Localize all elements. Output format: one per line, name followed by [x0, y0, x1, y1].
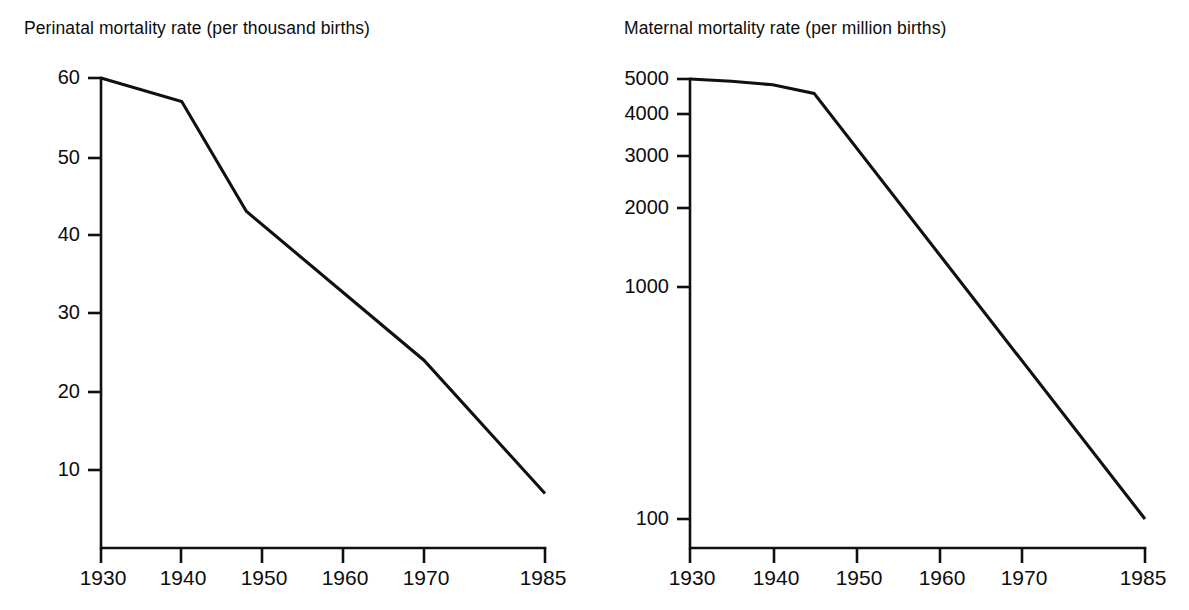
x-tick-label-1960: 1960 [919, 566, 966, 589]
y-ticks-perinatal [88, 78, 101, 470]
x-tick-label-1950: 1950 [836, 566, 883, 589]
axis-lines-perinatal [101, 78, 545, 548]
x-ticks-perinatal [101, 548, 545, 563]
plot-area-perinatal: 60 50 40 30 20 10 1930 1940 1950 [0, 0, 600, 610]
y-tick-label-3000: 3000 [625, 144, 670, 166]
chart-panel-maternal: Maternal mortality rate (per million bir… [600, 0, 1189, 610]
y-tick-label-5000: 5000 [625, 67, 670, 89]
x-tick-label-1985: 1985 [1120, 566, 1167, 589]
x-tick-label-1950: 1950 [241, 566, 288, 589]
x-tick-label-1930: 1930 [80, 566, 127, 589]
data-line-maternal [690, 79, 1145, 519]
data-line-perinatal [101, 78, 545, 494]
x-tick-label-1970: 1970 [1001, 566, 1048, 589]
x-tick-label-1940: 1940 [753, 566, 800, 589]
x-tick-label-1970: 1970 [403, 566, 450, 589]
y-tick-label-10: 10 [58, 458, 80, 480]
x-tick-label-1960: 1960 [322, 566, 369, 589]
y-tick-labels-perinatal: 60 50 40 30 20 10 [58, 66, 80, 480]
x-tick-label-1940: 1940 [160, 566, 207, 589]
x-tick-labels-perinatal: 1930 1940 1950 1960 1970 1985 [80, 566, 567, 589]
y-tick-labels-maternal: 5000 4000 3000 2000 1000 100 [625, 67, 670, 529]
y-tick-label-20: 20 [58, 380, 80, 402]
x-tick-label-1930: 1930 [669, 566, 716, 589]
y-tick-label-4000: 4000 [625, 102, 670, 124]
axis-lines-maternal [690, 79, 1145, 548]
x-tick-label-1985: 1985 [520, 566, 567, 589]
y-tick-label-30: 30 [58, 301, 80, 323]
y-tick-label-2000: 2000 [625, 196, 670, 218]
y-tick-label-40: 40 [58, 223, 80, 245]
y-ticks-maternal [677, 79, 690, 519]
y-tick-label-60: 60 [58, 66, 80, 88]
y-tick-label-50: 50 [58, 146, 80, 168]
plot-area-maternal: 5000 4000 3000 2000 1000 100 1930 1940 [600, 0, 1189, 610]
chart-panel-perinatal: Perinatal mortality rate (per thousand b… [0, 0, 600, 610]
two-panel-mortality-figure: Perinatal mortality rate (per thousand b… [0, 0, 1189, 610]
y-tick-label-1000: 1000 [625, 275, 670, 297]
x-ticks-maternal [690, 548, 1145, 563]
y-tick-label-100: 100 [636, 507, 669, 529]
x-tick-labels-maternal: 1930 1940 1950 1960 1970 1985 [669, 566, 1167, 589]
